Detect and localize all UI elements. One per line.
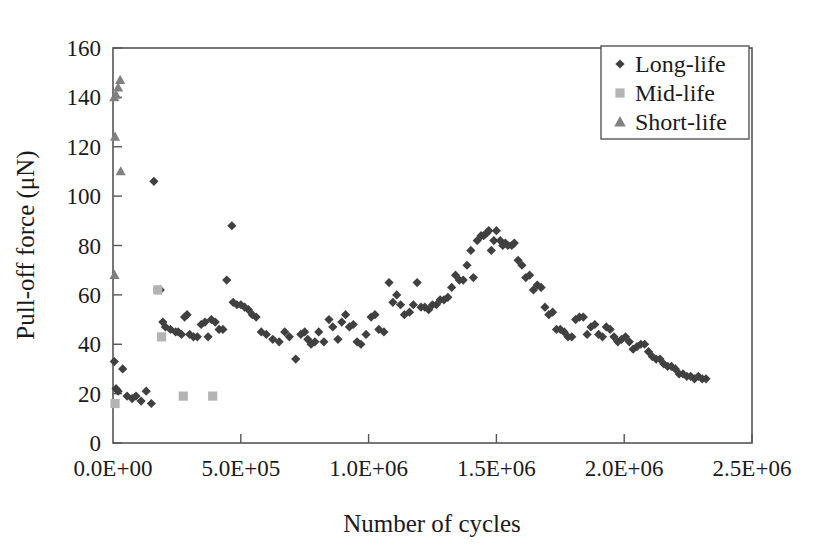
x-tick-label: 1.5E+06	[457, 456, 536, 481]
data-point	[116, 166, 126, 175]
data-point	[388, 298, 397, 307]
x-axis-title: Number of cycles	[343, 510, 521, 537]
chart-legend: Long-lifeMid-lifeShort-life	[601, 46, 749, 139]
data-point	[147, 399, 156, 408]
y-tick-label: 60	[78, 283, 101, 308]
x-axis-tickmarks	[241, 434, 752, 443]
data-point	[487, 246, 496, 255]
data-point	[208, 391, 217, 400]
data-point	[319, 337, 328, 346]
series-mid-life	[110, 285, 217, 408]
data-point	[157, 332, 166, 341]
y-tick-label: 100	[67, 184, 102, 209]
y-tick-label: 120	[67, 135, 102, 160]
y-axis-title: Pull-off force (μN)	[12, 150, 40, 339]
legend-label-short-life: Short-life	[635, 109, 727, 135]
data-point	[115, 75, 125, 84]
data-point	[222, 275, 231, 284]
data-point	[583, 330, 592, 339]
data-point	[396, 300, 405, 309]
y-tick-label: 80	[78, 234, 101, 259]
data-point	[153, 285, 162, 294]
data-point	[324, 315, 333, 324]
x-tick-label: 1.0E+06	[329, 456, 408, 481]
data-point	[447, 283, 456, 292]
chart-canvas: 020406080100120140160 0.0E+005.0E+051.0E…	[0, 0, 822, 544]
x-axis-tick-labels: 0.0E+005.0E+051.0E+061.5E+062.0E+062.5E+…	[74, 456, 792, 481]
data-point	[492, 226, 501, 235]
legend-label-mid-life: Mid-life	[635, 80, 715, 106]
data-point	[462, 261, 471, 270]
y-tick-label: 140	[67, 85, 102, 110]
x-tick-label: 2.5E+06	[713, 456, 792, 481]
scatter-chart-figure: 020406080100120140160 0.0E+005.0E+051.0E…	[0, 0, 822, 544]
data-point	[110, 132, 120, 141]
data-point	[109, 270, 119, 279]
data-point	[149, 177, 158, 186]
data-point	[409, 300, 418, 309]
series-long-life	[110, 177, 711, 408]
data-point	[413, 278, 422, 287]
data-point	[227, 221, 236, 230]
series-short-life	[109, 75, 126, 279]
data-point	[110, 399, 119, 408]
data-point	[469, 273, 478, 282]
y-axis-tickmarks	[113, 48, 122, 443]
data-point	[466, 246, 475, 255]
data-point	[337, 317, 346, 326]
y-tick-label: 20	[78, 382, 101, 407]
data-point	[203, 332, 212, 341]
data-point	[314, 327, 323, 336]
y-tick-label: 40	[78, 332, 101, 357]
data-point	[328, 322, 337, 331]
y-tick-label: 0	[90, 431, 102, 456]
data-point	[361, 330, 370, 339]
data-point	[110, 357, 119, 366]
data-point	[384, 278, 393, 287]
data-point	[179, 391, 188, 400]
data-point	[142, 387, 151, 396]
y-axis-tick-labels: 020406080100120140160	[67, 36, 102, 456]
y-tick-label: 160	[67, 36, 102, 61]
data-point	[291, 354, 300, 363]
data-point	[333, 335, 342, 344]
x-tick-label: 0.0E+00	[74, 456, 153, 481]
x-tick-label: 2.0E+06	[585, 456, 664, 481]
square-marker-icon	[615, 88, 624, 97]
data-point	[540, 303, 549, 312]
legend-label-long-life: Long-life	[635, 51, 726, 77]
data-point	[341, 310, 350, 319]
data-point	[392, 290, 401, 299]
data-point	[118, 364, 127, 373]
x-tick-label: 5.0E+05	[201, 456, 280, 481]
